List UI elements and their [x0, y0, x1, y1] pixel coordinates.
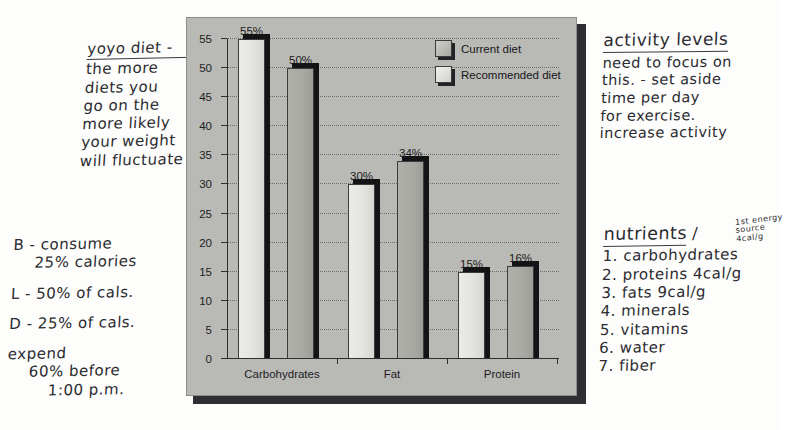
y-tick-label: 20	[199, 237, 212, 249]
note-meals-line-1: 25% calories	[12, 251, 193, 272]
note-meal-calories: B - consume 25% calories L - 50% of cals…	[5, 233, 194, 400]
y-tick-label: 15	[199, 266, 212, 278]
note-activity-levels: activity levels need to focus on this. -…	[599, 28, 780, 143]
bar-carbohydrates-recommended: 50%	[287, 68, 314, 359]
y-tick-label: 35	[199, 149, 212, 161]
gridline	[227, 213, 559, 214]
note-meals-line-6: 1:00 p.m.	[5, 379, 186, 400]
bar-protein-current: 15%	[458, 272, 485, 359]
legend-item-current[interactable]: Current diet	[435, 40, 571, 57]
note-activity-line-0: need to focus on	[602, 53, 779, 73]
gridline	[227, 38, 559, 39]
y-tick-label: 40	[199, 120, 212, 132]
y-tick-label: 30	[199, 178, 212, 190]
bar-value-label: 30%	[350, 170, 373, 182]
x-axis-label-protein: Protein	[484, 368, 520, 380]
bar-fat-recommended: 34%	[397, 161, 424, 359]
y-tick-label: 0	[206, 353, 212, 365]
x-axis-label-carbohydrates: Carbohydrates	[244, 368, 319, 380]
bar-fat-current: 30%	[348, 184, 375, 359]
y-tick-label: 5	[206, 324, 212, 336]
note-nutrients-heading: nutrients	[603, 223, 687, 248]
bar-value-label: 55%	[240, 25, 263, 37]
note-yoyo-line-6: will fluctuate	[79, 149, 198, 170]
note-meals-line-3: D - 25% of cals.	[9, 312, 190, 333]
gridline	[227, 242, 559, 243]
gridline	[227, 154, 559, 155]
note-nutrients-list: nutrients / 1st energy source 4cal/g 1. …	[598, 222, 782, 376]
bar-carbohydrates-current: 55%	[238, 39, 265, 359]
x-tick	[337, 359, 338, 364]
note-nutrients-slash: /	[692, 224, 699, 243]
x-tick	[557, 359, 558, 364]
chart-legend: Current dietRecommended diet	[435, 40, 571, 92]
bar-value-label: 16%	[509, 252, 532, 264]
x-axis-label-fat: Fat	[384, 368, 401, 380]
gridline	[227, 96, 559, 97]
note-meals-line-2: L - 50% of cals.	[10, 282, 191, 303]
note-nutrients-item-6: 7. fiber	[598, 355, 777, 376]
legend-swatch-icon	[435, 40, 452, 57]
bar-protein-recommended: 16%	[507, 266, 534, 359]
legend-label: Recommended diet	[461, 69, 561, 81]
note-nutrients-margin-note: 1st energy source 4cal/g	[735, 213, 787, 244]
note-activity-line-1: this. - set aside	[601, 71, 778, 91]
gridline	[227, 125, 559, 126]
bar-chart: 0510152025303540455055 CarbohydratesFatP…	[186, 17, 577, 396]
x-axis-line	[227, 358, 559, 359]
legend-label: Current diet	[461, 43, 521, 55]
note-activity-heading: activity levels	[603, 29, 729, 53]
bar-value-label: 50%	[289, 54, 312, 66]
bar-value-label: 15%	[460, 258, 483, 270]
note-activity-line-2: time per day	[601, 88, 778, 108]
y-axis-line	[227, 39, 228, 359]
y-tick-label: 55	[199, 33, 212, 45]
note-activity-line-4: increase activity	[599, 124, 776, 144]
bar-value-label: 34%	[399, 147, 422, 159]
legend-swatch-icon	[435, 66, 452, 83]
x-tick	[447, 359, 448, 364]
y-tick-label: 50	[199, 62, 212, 74]
y-tick-label: 10	[199, 295, 212, 307]
note-activity-line-3: for exercise.	[600, 106, 777, 126]
y-tick-label: 45	[199, 91, 212, 103]
legend-item-recommended[interactable]: Recommended diet	[435, 66, 571, 83]
y-tick-label: 25	[199, 208, 212, 220]
gridline	[227, 183, 559, 184]
